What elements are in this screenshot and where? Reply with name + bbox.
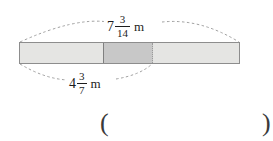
bar-segment-right xyxy=(153,43,239,63)
top-fraction: 3 14 xyxy=(115,14,130,39)
answer-open-paren: ( xyxy=(100,108,109,138)
bottom-denominator: 7 xyxy=(77,83,87,96)
bottom-arc-right xyxy=(116,64,152,79)
bottom-fraction: 3 7 xyxy=(77,71,87,96)
top-measurement-label: 7 3 14 m xyxy=(104,14,147,39)
top-arc-right xyxy=(162,21,239,42)
top-numerator: 3 xyxy=(118,14,128,26)
top-unit: m xyxy=(134,20,144,33)
bar-segment-left xyxy=(20,43,104,63)
fraction-bar-figure: 7 3 14 m 4 3 7 m ( ) xyxy=(0,0,273,141)
bottom-numerator: 3 xyxy=(77,71,87,83)
top-arc-left xyxy=(20,21,108,42)
answer-row: ( ) xyxy=(0,108,273,141)
bottom-arc-left xyxy=(20,64,68,80)
top-whole-number: 7 xyxy=(107,20,114,34)
bottom-unit: m xyxy=(91,77,101,90)
bottom-measurement-label: 4 3 7 m xyxy=(66,71,104,96)
bar-segment-middle xyxy=(104,43,153,63)
top-denominator: 14 xyxy=(115,26,130,39)
bottom-whole-number: 4 xyxy=(69,77,76,91)
answer-close-paren: ) xyxy=(262,108,271,138)
fraction-bar xyxy=(19,42,240,64)
